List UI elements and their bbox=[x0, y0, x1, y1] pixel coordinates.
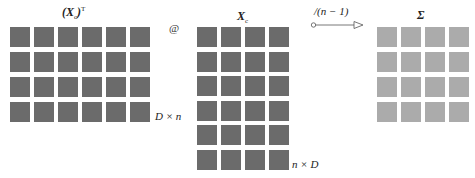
matrix-xc-transpose-title: (Xc)T bbox=[62, 5, 85, 21]
matrix-sigma bbox=[377, 27, 469, 122]
matrix-cell bbox=[401, 102, 421, 122]
matrix-cell bbox=[377, 27, 397, 47]
matrix-cell bbox=[269, 52, 289, 72]
matrix-cell bbox=[221, 101, 241, 121]
matrix-cell bbox=[82, 102, 102, 122]
matrix-cell bbox=[221, 150, 241, 170]
matrix-cell bbox=[377, 77, 397, 97]
matrix-cell bbox=[221, 125, 241, 145]
matrix-cell bbox=[245, 27, 265, 47]
matrix-cell bbox=[34, 52, 54, 72]
matrix-cell bbox=[197, 76, 217, 96]
matrix-cell bbox=[425, 52, 445, 72]
matrix-cell bbox=[269, 76, 289, 96]
matrix-xc bbox=[197, 27, 289, 170]
matmul-operator: @ bbox=[169, 22, 179, 34]
matrix-cell bbox=[82, 77, 102, 97]
matrix-cell bbox=[106, 77, 126, 97]
matrix-cell bbox=[425, 27, 445, 47]
matrix-xc-title: Xc bbox=[237, 9, 248, 25]
matrix-cell bbox=[10, 77, 30, 97]
matrix-cell bbox=[425, 102, 445, 122]
matrix-cell bbox=[197, 125, 217, 145]
matrix-cell bbox=[401, 52, 421, 72]
matrix-cell bbox=[377, 102, 397, 122]
matrix-cell bbox=[221, 52, 241, 72]
dimension-label-n-by-d: n × D bbox=[292, 158, 318, 170]
matrix-cell bbox=[269, 27, 289, 47]
matrix-cell bbox=[106, 102, 126, 122]
matrix-cell bbox=[269, 101, 289, 121]
matrix-cell bbox=[449, 77, 469, 97]
title-main: X bbox=[237, 9, 245, 23]
matrix-cell bbox=[377, 52, 397, 72]
matrix-cell bbox=[10, 52, 30, 72]
dimension-label-d-by-n: D × n bbox=[155, 110, 181, 122]
matrix-xc-transpose bbox=[10, 27, 150, 122]
matrix-sigma-title: Σ bbox=[417, 8, 424, 23]
matrix-cell bbox=[425, 77, 445, 97]
matrix-cell bbox=[197, 52, 217, 72]
matrix-cell bbox=[449, 52, 469, 72]
matrix-cell bbox=[197, 150, 217, 170]
matrix-cell bbox=[245, 150, 265, 170]
matrix-cell bbox=[58, 52, 78, 72]
matrix-cell bbox=[401, 27, 421, 47]
matrix-cell bbox=[245, 52, 265, 72]
matrix-cell bbox=[10, 102, 30, 122]
matrix-cell bbox=[58, 27, 78, 47]
matrix-cell bbox=[106, 52, 126, 72]
matrix-cell bbox=[245, 125, 265, 145]
matrix-cell bbox=[221, 76, 241, 96]
matrix-cell bbox=[34, 102, 54, 122]
matrix-cell bbox=[34, 27, 54, 47]
matrix-cell bbox=[58, 77, 78, 97]
matrix-cell bbox=[130, 52, 150, 72]
matrix-cell bbox=[197, 101, 217, 121]
matrix-cell bbox=[130, 77, 150, 97]
matrix-cell bbox=[449, 27, 469, 47]
matrix-cell bbox=[106, 27, 126, 47]
matrix-cell bbox=[82, 52, 102, 72]
matrix-cell bbox=[10, 27, 30, 47]
matrix-cell bbox=[34, 77, 54, 97]
matrix-cell bbox=[130, 27, 150, 47]
matrix-cell bbox=[58, 102, 78, 122]
matrix-cell bbox=[221, 27, 241, 47]
title-sup: T bbox=[81, 5, 85, 13]
title-main: (X bbox=[62, 5, 74, 19]
matrix-cell bbox=[130, 102, 150, 122]
arrow-label: /(n − 1) bbox=[314, 5, 348, 17]
matrix-cell bbox=[269, 150, 289, 170]
matrix-cell bbox=[245, 101, 265, 121]
matrix-cell bbox=[82, 27, 102, 47]
matrix-cell bbox=[401, 77, 421, 97]
title-sub: c bbox=[245, 17, 248, 25]
matrix-cell bbox=[197, 27, 217, 47]
matrix-cell bbox=[269, 125, 289, 145]
matrix-cell bbox=[245, 76, 265, 96]
matrix-cell bbox=[449, 102, 469, 122]
